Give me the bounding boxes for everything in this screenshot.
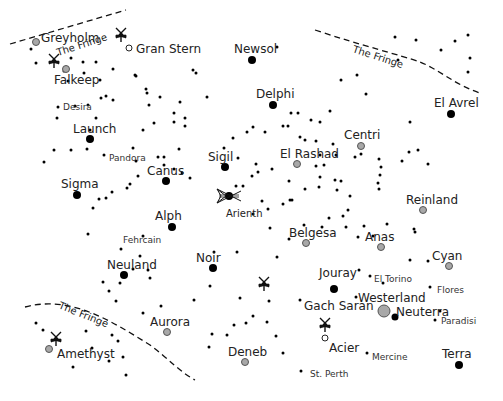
system-label-cyan[interactable]: Cyan: [432, 249, 462, 263]
system-label-desira[interactable]: Desira: [63, 102, 92, 112]
system-alph-marker[interactable]: [168, 223, 176, 231]
system-aurora-marker[interactable]: [164, 329, 171, 336]
system-st-perth-marker[interactable]: [300, 370, 303, 373]
system-label-terra[interactable]: Terra: [441, 347, 472, 361]
system-el-rashad-marker[interactable]: [294, 161, 301, 168]
star-dot: [53, 149, 56, 152]
system-label-alph[interactable]: Alph: [155, 209, 182, 223]
system-label-el-rashad[interactable]: El Rashad: [280, 147, 339, 161]
system-delphi-marker[interactable]: [269, 101, 277, 109]
system-label-centri[interactable]: Centri: [344, 128, 380, 142]
fleet-icon[interactable]: [115, 28, 126, 42]
star-dot: [184, 125, 187, 128]
fleet-icon[interactable]: [50, 332, 61, 346]
system-acier-marker[interactable]: [322, 335, 328, 341]
star-dot: [360, 153, 363, 156]
system-label-fehrcain[interactable]: Fehrcain: [123, 235, 161, 245]
system-jouray-marker[interactable]: [330, 285, 338, 293]
star-dot: [257, 171, 260, 174]
system-label-sigma[interactable]: Sigma: [61, 177, 99, 191]
system-el-torino-marker[interactable]: [369, 275, 372, 278]
system-label-paradisi[interactable]: Paradisi: [441, 316, 476, 326]
system-label-jouray[interactable]: Jouray: [318, 266, 357, 280]
star-dot: [112, 99, 115, 102]
fleet-icon[interactable]: [319, 318, 330, 332]
system-mercine-marker[interactable]: [366, 352, 369, 355]
star-dot: [86, 148, 89, 151]
system-desira-marker[interactable]: [57, 106, 60, 109]
system-centri-marker[interactable]: [358, 143, 365, 150]
star-dot: [356, 74, 359, 77]
system-amethyst-marker[interactable]: [46, 346, 53, 353]
system-reinland-marker[interactable]: [420, 207, 427, 214]
star-dot: [386, 223, 389, 226]
system-flores-marker[interactable]: [429, 286, 432, 289]
star-dot: [105, 197, 108, 200]
system-label-gach-saran[interactable]: Gach Saran: [304, 299, 374, 313]
system-label-acier[interactable]: Acier: [329, 341, 359, 355]
system-label-delphi[interactable]: Delphi: [256, 87, 295, 101]
system-label-falkeep[interactable]: Falkeep: [54, 73, 99, 87]
system-label-greyholm[interactable]: Greyholm: [41, 31, 99, 45]
system-neuland-marker[interactable]: [120, 271, 128, 279]
system-label-pandora[interactable]: Pandora: [109, 153, 146, 163]
system-neuterra-grey-marker[interactable]: [378, 305, 390, 317]
system-label-deneb[interactable]: Deneb: [228, 345, 267, 359]
system-anas-marker[interactable]: [378, 244, 385, 251]
system-gach-saran-marker[interactable]: [299, 299, 302, 302]
star-dot: [252, 315, 255, 318]
system-label-sigil[interactable]: Sigil: [208, 150, 233, 164]
system-newsol-marker[interactable]: [248, 56, 256, 64]
system-label-noir[interactable]: Noir: [196, 251, 221, 265]
star-dot: [290, 112, 293, 115]
system-deneb-marker[interactable]: [242, 359, 249, 366]
system-label-aurora[interactable]: Aurora: [150, 315, 190, 329]
star-dot: [282, 125, 285, 128]
system-canus-marker[interactable]: [162, 177, 170, 185]
system-label-reinland[interactable]: Reinland: [406, 193, 458, 207]
system-label-launch[interactable]: Launch: [73, 122, 116, 136]
system-pandora-marker[interactable]: [103, 154, 106, 157]
star-dot: [358, 269, 361, 272]
system-terra-marker[interactable]: [455, 361, 463, 369]
system-noir-marker[interactable]: [209, 264, 217, 272]
star-dot: [149, 277, 152, 280]
system-label-neuland[interactable]: Neuland: [107, 258, 157, 272]
system-el-avrel-marker[interactable]: [447, 110, 455, 118]
system-falkeep-marker[interactable]: [63, 66, 70, 73]
star-dot: [236, 251, 239, 254]
star-dot: [237, 157, 240, 160]
star-dot: [85, 330, 88, 333]
system-label-arienth[interactable]: Arienth: [226, 208, 262, 219]
system-label-canus[interactable]: Canus: [147, 164, 184, 178]
system-label-anas[interactable]: Anas: [365, 230, 394, 244]
star-dot: [304, 188, 307, 191]
system-cyan-marker[interactable]: [446, 263, 453, 270]
system-greyholm-marker[interactable]: [33, 39, 40, 46]
star-dot: [379, 174, 382, 177]
star-dot: [415, 39, 418, 42]
system-gran-stern-marker[interactable]: [126, 45, 132, 51]
system-label-el-torino[interactable]: El Torino: [374, 274, 412, 284]
system-sigma-marker[interactable]: [73, 191, 81, 199]
system-label-gran-stern[interactable]: Gran Stern: [136, 42, 201, 56]
system-label-newsol[interactable]: Newsol: [234, 42, 277, 56]
system-label-mercine[interactable]: Mercine: [372, 352, 408, 362]
star-dot: [378, 188, 381, 191]
system-belgesa-marker[interactable]: [303, 240, 310, 247]
fleet-icon[interactable]: [258, 277, 269, 291]
system-label-el-avrel[interactable]: El Avrel: [434, 96, 479, 110]
system-label-st-perth[interactable]: St. Perth: [310, 369, 349, 379]
star-dot: [365, 93, 368, 96]
system-launch-marker[interactable]: [86, 135, 94, 143]
star-dot: [345, 226, 348, 229]
system-label-flores[interactable]: Flores: [437, 285, 464, 295]
star-dot: [397, 59, 400, 62]
star-dot: [315, 165, 318, 168]
system-label-amethyst[interactable]: Amethyst: [57, 347, 115, 361]
system-sigil-marker[interactable]: [221, 163, 229, 171]
system-fehrcain-marker[interactable]: [120, 248, 123, 251]
system-label-belgesa[interactable]: Belgesa: [289, 226, 337, 240]
star-dot: [189, 177, 192, 180]
star-dot: [467, 34, 470, 37]
